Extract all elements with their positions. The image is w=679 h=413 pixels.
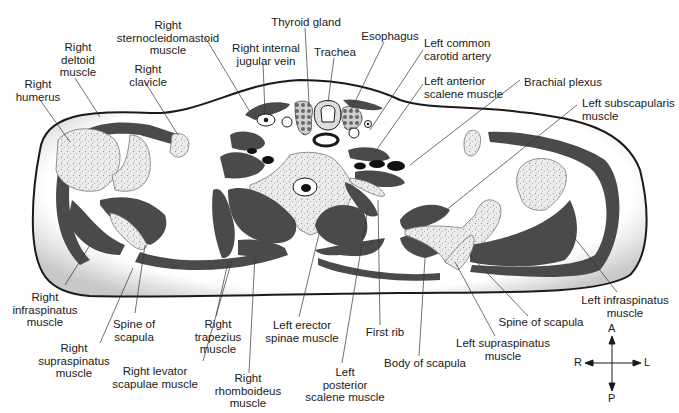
orientation-compass bbox=[585, 336, 641, 391]
label-right-rhomboideus: Right rhomboideus muscle bbox=[212, 372, 284, 410]
label-left-erector-spinae: Left erector spinae muscle bbox=[258, 319, 346, 344]
label-right-deltoid: Right deltoid muscle bbox=[48, 41, 108, 79]
cross-section-figure: Right sternocleidomastoid muscle Right d… bbox=[0, 0, 679, 413]
label-right-infraspinatus: Right infraspinatus muscle bbox=[10, 291, 80, 329]
right-humerus bbox=[56, 129, 120, 192]
esophagus bbox=[314, 134, 338, 146]
brachial-plexus-3 bbox=[387, 161, 405, 171]
right-clavicle bbox=[170, 133, 189, 157]
label-trachea: Trachea bbox=[310, 46, 360, 59]
label-right-humerus: Right humerus bbox=[8, 78, 68, 103]
label-first-rib: First rib bbox=[355, 326, 415, 339]
label-right-trapezius: Right trapezius muscle bbox=[190, 318, 246, 356]
compass-anterior: A bbox=[608, 322, 615, 334]
right-carotid-artery bbox=[282, 117, 292, 127]
label-left-infraspinatus: Left infraspinatus muscle bbox=[575, 294, 675, 319]
label-right-internal-jugular-vein: Right internal jugular vein bbox=[226, 42, 306, 67]
label-left-supraspinatus: Left supraspinatus muscle bbox=[448, 337, 558, 362]
compass-left: L bbox=[644, 356, 650, 368]
brachial-plexus-1 bbox=[354, 163, 366, 170]
label-left-posterior-scalene: Left posterior scalene muscle bbox=[300, 366, 390, 404]
label-thyroid-gland: Thyroid gland bbox=[266, 16, 346, 29]
label-left-subscapularis: Left subscapularis muscle bbox=[582, 97, 679, 122]
label-left-common-carotid-artery: Left common carotid artery bbox=[424, 37, 534, 62]
label-right-sternocleidomastoid: Right sternocleidomastoid muscle bbox=[108, 19, 228, 57]
label-esophagus: Esophagus bbox=[355, 30, 425, 43]
compass-right: R bbox=[574, 356, 582, 368]
label-right-clavicle: Right clavicle bbox=[118, 63, 178, 88]
label-right-levator-scapulae: Right levator scapulae muscle bbox=[110, 365, 200, 390]
compass-posterior: P bbox=[608, 392, 615, 404]
left-common-carotid-artery bbox=[349, 128, 359, 138]
label-right-supraspinatus: Right supraspinatus muscle bbox=[38, 342, 110, 380]
label-spine-of-scapula-right: Spine of scapula bbox=[108, 318, 160, 343]
label-left-anterior-scalene: Left anterior scalene muscle bbox=[424, 75, 534, 100]
brachial-plexus-2 bbox=[369, 160, 385, 168]
label-spine-of-scapula-left: Spine of scapula bbox=[496, 316, 586, 329]
label-brachial-plexus: Brachial plexus bbox=[524, 76, 634, 89]
